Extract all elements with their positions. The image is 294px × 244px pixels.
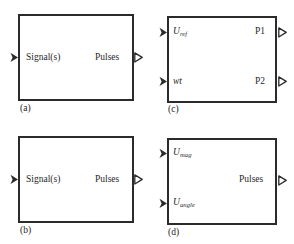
block-d-input-label-2-base: U [173,197,180,207]
block-a-caption: (a) [20,103,31,113]
input-port-filled-arrow-icon[interactable] [159,148,168,159]
output-port-hollow-arrow-icon[interactable] [278,175,287,186]
block-c-output-label-2: P2 [255,76,265,86]
block-c-input-label-1-sub: ref [180,30,187,37]
block-b-output-label: Pulses [95,174,119,184]
block-c-caption: (c) [168,104,179,114]
output-port-hollow-arrow-icon[interactable] [134,52,143,63]
block-a-output-label: Pulses [95,52,119,62]
block-c-input-label-1-base: U [173,26,180,36]
block-d-input-label-1-sub: mag [180,151,192,158]
block-c-input-label-1: Uref [173,26,187,36]
block-diagram-a: Signal(s) Pulses (a) [0,0,147,122]
block-c-input-label-2: wt [173,76,182,86]
input-port-filled-arrow-icon[interactable] [10,52,19,63]
block-b-input-label: Signal(s) [26,174,60,184]
block-d-caption: (d) [168,227,179,237]
output-port-hollow-arrow-icon[interactable] [278,76,287,87]
block-diagram-b: Signal(s) Pulses (b) [0,122,147,244]
input-port-filled-arrow-icon[interactable] [159,198,168,209]
input-port-filled-arrow-icon[interactable] [159,27,168,38]
input-port-filled-arrow-icon[interactable] [159,76,168,87]
output-port-hollow-arrow-icon[interactable] [134,174,143,185]
block-c-output-label-1: P1 [255,26,265,36]
block-b-caption: (b) [20,225,31,235]
block-diagram-d: Umag Uangle Pulses (d) [147,122,294,244]
figure-canvas: Signal(s) Pulses (a) Signal(s) Pulses (b… [0,0,294,244]
block-diagram-c: Uref wt P1 P2 (c) [147,0,294,122]
block-d-input-label-2-sub: angle [180,201,195,208]
block-d-input-label-2: Uangle [173,197,195,207]
block-d-output-label: Pulses [239,174,263,184]
block-d-input-label-1: Umag [173,147,192,157]
block-a-input-label: Signal(s) [26,52,60,62]
block-c-input-label-2-base: wt [173,76,182,86]
input-port-filled-arrow-icon[interactable] [10,174,19,185]
block-d-input-label-1-base: U [173,147,180,157]
output-port-hollow-arrow-icon[interactable] [278,27,287,38]
